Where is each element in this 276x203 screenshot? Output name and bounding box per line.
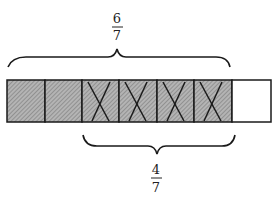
fraction-bar-diagram: 6 7 4 7 bbox=[0, 0, 276, 203]
top-denominator: 7 bbox=[113, 28, 121, 43]
bottom-brace bbox=[83, 135, 235, 154]
bottom-fraction-label: 4 7 bbox=[151, 162, 162, 195]
fraction-bar bbox=[7, 80, 271, 122]
top-fraction-label: 6 7 bbox=[112, 11, 123, 43]
top-numerator: 6 bbox=[113, 11, 121, 26]
bar-part-1 bbox=[7, 80, 45, 122]
bottom-numerator: 4 bbox=[152, 162, 160, 177]
top-brace bbox=[8, 49, 230, 67]
bottom-denominator: 7 bbox=[152, 180, 160, 195]
bar-part-2 bbox=[45, 80, 82, 122]
bar-part-7 bbox=[232, 80, 271, 122]
